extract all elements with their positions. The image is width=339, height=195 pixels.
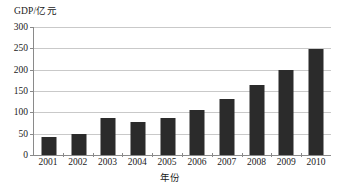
y-axis-tick-label: 50 — [19, 129, 29, 139]
x-axis-tick-mark — [63, 153, 64, 157]
bar-slot — [93, 27, 123, 155]
bar — [279, 70, 294, 155]
x-axis-tick-label: 2003 — [98, 157, 117, 167]
bar-slot — [242, 27, 272, 155]
x-axis-tick-label: 2007 — [217, 157, 236, 167]
x-axis-labels: 2001200220032004200520062007200820092010 — [33, 157, 331, 171]
bar — [130, 122, 145, 155]
x-axis-tick-label: 2009 — [277, 157, 296, 167]
bar — [220, 99, 235, 155]
y-axis-title: GDP/亿元 — [14, 3, 57, 17]
y-axis-tick-label: 100 — [14, 107, 28, 117]
bar-slot — [212, 27, 242, 155]
y-axis-tick-label: 250 — [14, 43, 28, 53]
x-axis-tick-mark — [182, 153, 183, 157]
bar-slot — [301, 27, 331, 155]
x-axis-tick-mark — [271, 153, 272, 157]
bar-slot — [123, 27, 153, 155]
y-axis-tick-label: 0 — [23, 150, 28, 160]
bars-layer — [34, 27, 331, 155]
bar — [71, 134, 86, 155]
bar-slot — [183, 27, 213, 155]
x-axis-tick-label: 2006 — [187, 157, 206, 167]
x-axis-tick-label: 2001 — [38, 157, 57, 167]
bar — [160, 118, 175, 155]
x-axis-tick-mark — [301, 153, 302, 157]
x-axis-tick-mark — [242, 153, 243, 157]
x-axis-tick-mark — [122, 153, 123, 157]
x-axis-tick-mark — [152, 153, 153, 157]
x-axis-tick-label: 2004 — [128, 157, 147, 167]
y-axis-tick-label: 300 — [14, 22, 28, 32]
bar — [190, 110, 205, 155]
x-axis-tick-label: 2010 — [307, 157, 326, 167]
bar-slot — [64, 27, 94, 155]
bar-slot — [34, 27, 64, 155]
y-axis-tick-label: 150 — [14, 86, 28, 96]
bar-slot — [153, 27, 183, 155]
y-axis-tick-mark — [30, 155, 34, 156]
bar — [309, 49, 324, 155]
bar-slot — [272, 27, 302, 155]
bar-chart-figure: GDP/亿元 050100150200250300 20012002200320… — [0, 0, 339, 195]
x-axis-tick-label: 2008 — [247, 157, 266, 167]
x-axis-tick-mark — [212, 153, 213, 157]
bar — [101, 118, 116, 155]
bar — [41, 137, 56, 155]
x-axis-tick-label: 2005 — [158, 157, 177, 167]
x-axis-tick-label: 2002 — [68, 157, 87, 167]
x-axis-tick-mark — [93, 153, 94, 157]
y-axis-tick-label: 200 — [14, 65, 28, 75]
x-axis-title: 年份 — [0, 170, 339, 184]
bar — [249, 85, 264, 155]
plot-area: 050100150200250300 — [33, 27, 331, 155]
